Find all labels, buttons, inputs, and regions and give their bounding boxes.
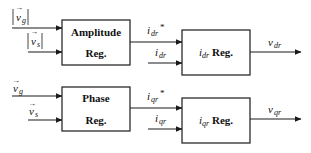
- svg-text:s: s: [37, 40, 40, 49]
- phase-regulator-block: Phase Reg.: [62, 87, 130, 131]
- signal-vg-magnitude: → v g: [13, 3, 28, 25]
- svg-text:Amplitude: Amplitude: [71, 26, 121, 38]
- svg-text:v: v: [13, 82, 18, 94]
- signal-idr-reference: i dr *: [147, 22, 165, 38]
- signal-vdr-output: v dr: [268, 36, 282, 50]
- control-block-diagram: → v g → v s Amplitude Reg. i dr * i dr i…: [0, 0, 311, 153]
- amplitude-regulator-block: Amplitude Reg.: [62, 20, 130, 65]
- svg-text:v: v: [268, 36, 273, 48]
- svg-text:dr: dr: [159, 51, 167, 60]
- svg-text:i: i: [155, 112, 158, 124]
- signal-vs-magnitude: → v s: [28, 27, 42, 49]
- signal-vqr-output: v qr: [268, 103, 282, 117]
- signal-vs: → v s: [28, 99, 38, 119]
- svg-text:v: v: [268, 103, 273, 115]
- svg-text:s: s: [35, 110, 38, 119]
- svg-text:qr: qr: [159, 117, 167, 126]
- svg-text:Phase: Phase: [82, 92, 110, 104]
- svg-text:Reg.: Reg.: [85, 114, 106, 126]
- svg-text:v: v: [31, 35, 36, 47]
- signal-vg: → v g: [12, 76, 23, 96]
- svg-text:g: g: [19, 87, 23, 96]
- svg-text:qr: qr: [151, 95, 159, 104]
- svg-text:i: i: [147, 90, 150, 102]
- svg-text:v: v: [29, 105, 34, 117]
- svg-text:*: *: [160, 88, 165, 98]
- svg-text:v: v: [16, 11, 21, 23]
- signal-iqr-feedback: i qr: [155, 112, 167, 126]
- svg-text:dr: dr: [274, 41, 282, 50]
- svg-text:qr: qr: [274, 108, 282, 117]
- svg-text:i: i: [155, 46, 158, 58]
- svg-text:g: g: [22, 16, 26, 25]
- svg-text:i: i: [147, 24, 150, 36]
- idr-regulator-block: idr Reg.: [182, 30, 250, 75]
- signal-iqr-reference: i qr *: [147, 88, 165, 104]
- iqr-regulator-block: iqr Reg.: [182, 98, 250, 143]
- svg-text:dr: dr: [151, 29, 159, 38]
- signal-idr-feedback: i dr: [155, 46, 167, 60]
- svg-text:Reg.: Reg.: [85, 47, 106, 59]
- svg-text:*: *: [160, 22, 165, 32]
